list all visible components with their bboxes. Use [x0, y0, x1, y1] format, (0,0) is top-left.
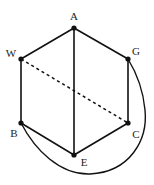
- node-G: [125, 56, 130, 61]
- node-E: [71, 152, 76, 157]
- node-C: [125, 120, 130, 125]
- edge-A-G: [74, 28, 128, 59]
- node-A: [71, 25, 76, 30]
- label-B: B: [10, 127, 17, 139]
- edge-A-W: [21, 28, 74, 59]
- label-A: A: [70, 10, 78, 22]
- label-E: E: [81, 156, 88, 168]
- label-C: C: [132, 128, 139, 140]
- graph-diagram: A W G B C E: [0, 0, 154, 185]
- label-W: W: [6, 47, 17, 59]
- edge-C-E: [74, 123, 128, 155]
- edge-B-E: [21, 123, 74, 155]
- label-G: G: [132, 45, 140, 57]
- node-W: [18, 56, 23, 61]
- node-B: [18, 120, 23, 125]
